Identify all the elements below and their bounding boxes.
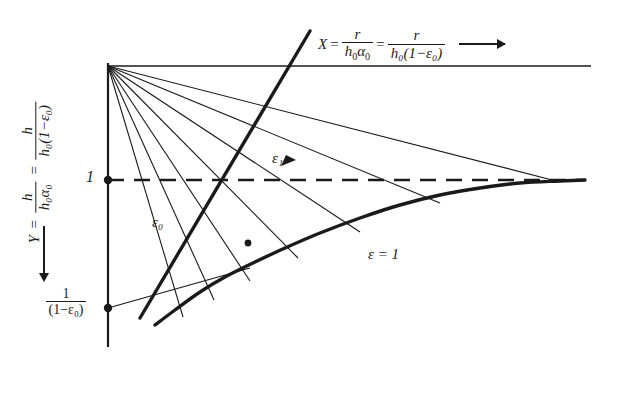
fan-lines-group bbox=[108, 66, 556, 317]
y-axis-label: Y = h h₀α₀ = h h₀(1−ε₀) bbox=[19, 63, 52, 283]
fan-line bbox=[108, 66, 556, 181]
y-frac2-denominator: h₀(1−ε₀) bbox=[37, 102, 53, 159]
eps1-arrow-marker bbox=[281, 155, 296, 166]
y-frac1-numerator: h bbox=[19, 181, 36, 213]
y-tick-lower-numerator: 1 bbox=[46, 286, 87, 302]
figure-canvas bbox=[0, 0, 617, 394]
tick-dot-lower bbox=[104, 304, 112, 312]
x-frac1-denominator: h0α0 bbox=[342, 43, 374, 62]
x-axis-symbol: X bbox=[318, 36, 327, 53]
x-frac2-denominator: h₀(1−ε₀) bbox=[388, 45, 445, 61]
x-frac2-numerator: r bbox=[388, 27, 445, 44]
fan-line bbox=[108, 66, 250, 281]
y-axis-fraction-1: h h₀α₀ bbox=[19, 181, 52, 213]
y-frac1-denominator: h₀α₀ bbox=[37, 181, 53, 213]
x-axis-fraction-1: r h0α0 bbox=[342, 26, 374, 62]
y-tick-label-one: 1 bbox=[86, 168, 94, 186]
y-tick-label-lower: 1 (1−ε₀) bbox=[30, 286, 102, 317]
y-tick-lower-fraction: 1 (1−ε₀) bbox=[46, 286, 87, 317]
y-axis-fraction-2: h h₀(1−ε₀) bbox=[19, 102, 52, 159]
y-axis-equals-2: = bbox=[26, 163, 42, 177]
y-axis-symbol: Y bbox=[26, 235, 42, 243]
y-axis-direction-arrow-icon bbox=[43, 226, 45, 274]
y-tick-lower-denominator: (1−ε₀) bbox=[46, 302, 87, 317]
fan-line bbox=[108, 66, 440, 203]
y-axis-equals: = bbox=[26, 217, 42, 231]
x-axis-fraction-2: r h₀(1−ε₀) bbox=[388, 27, 445, 60]
annotation-eps0: ε₀ bbox=[152, 214, 163, 231]
curve-dot bbox=[245, 240, 252, 247]
y-frac2-numerator: h bbox=[19, 102, 36, 159]
x-axis-label: X = r h0α0 = r h₀(1−ε₀) bbox=[318, 26, 505, 62]
annotation-eps1: ε₁ bbox=[272, 150, 283, 167]
x-axis-equals-2: = bbox=[373, 36, 387, 53]
x-axis-equals: = bbox=[327, 36, 341, 53]
annotation-eps-equals-one: ε = 1 bbox=[368, 246, 399, 263]
tick-dot-one bbox=[104, 176, 112, 184]
x-frac1-numerator: r bbox=[342, 26, 374, 43]
x-axis-direction-arrow-icon bbox=[459, 43, 505, 45]
